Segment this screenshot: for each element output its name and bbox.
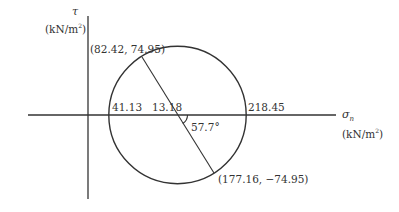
sigma-min-label: 41.13 [112, 101, 142, 113]
sigma-symbol: σn [342, 108, 355, 123]
tau-unit: (kN/m2) [45, 22, 86, 35]
sigma-max-label: 218.45 [248, 101, 285, 113]
mohr-circle-diagram: τ (kN/m2) σn (kN/m2) (82.42, 74.95) (177… [0, 0, 399, 212]
center-label: 13.18 [152, 101, 182, 113]
sigma-unit: (kN/m2) [342, 127, 383, 140]
diagram-svg: τ (kN/m2) σn (kN/m2) (82.42, 74.95) (177… [0, 0, 399, 212]
angle-arc [183, 115, 188, 124]
tau-symbol: τ [72, 5, 79, 18]
point-bottom-label: (177.16, −74.95) [218, 173, 308, 185]
angle-label: 57.7° [191, 121, 220, 133]
point-top-label: (82.42, 74.95) [90, 43, 165, 55]
